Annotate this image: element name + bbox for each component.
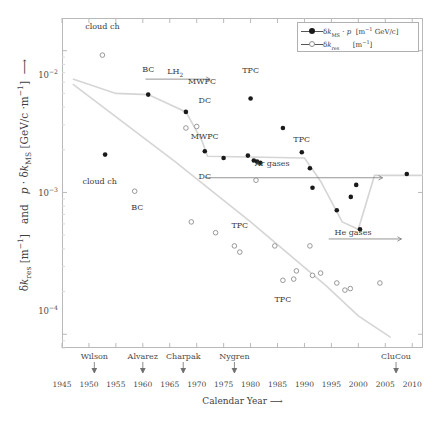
legend-label-res: δkres [m−1]: [323, 39, 415, 51]
legend-entry-res: δkres [m−1]: [301, 38, 415, 51]
annotation-label: cloud ch: [70, 177, 130, 186]
annotation-label: DC: [175, 96, 235, 105]
annotation-label: cloud ch: [72, 22, 132, 31]
annotation-label: He gases: [323, 228, 383, 237]
person-label-clucou: CluCou: [366, 352, 426, 361]
figure-container: δkres [m−1] and p · δkMS [GeV/c ·m−1] ⟶ …: [0, 0, 436, 424]
y-axis-title-text: δkres [m−1] and p · δkMS [GeV/c ·m−1] ⟶: [17, 59, 29, 291]
x-tick-label: 1985: [263, 380, 293, 389]
y-axis-title: δkres [m−1] and p · δkMS [GeV/c ·m−1] ⟶: [16, 20, 33, 330]
annotation-label: DC: [175, 172, 235, 181]
annotation-label: TPC: [272, 135, 332, 144]
x-tick-label: 2010: [397, 380, 427, 389]
legend: δkMS · p [m−1 GeV/c] δkres [m−1]: [297, 22, 419, 52]
x-tick-label: 1960: [128, 380, 158, 389]
annotation-label: Ar gases: [242, 159, 302, 168]
x-tick-label: 2005: [370, 380, 400, 389]
y-tick-label-1e-4: 10−4: [24, 304, 58, 316]
x-tick-label: 1950: [74, 380, 104, 389]
annotation-label: BC: [107, 203, 167, 212]
x-tick-label: 1990: [289, 380, 319, 389]
annotation-label: TPC: [221, 66, 281, 75]
x-tick-label: 2000: [343, 380, 373, 389]
person-markers: [92, 362, 399, 373]
annotation-label: MWPC: [172, 77, 232, 86]
x-tick-label: 1995: [316, 380, 346, 389]
annotation-label: LH2: [145, 67, 205, 78]
legend-marker-filled-circle: [301, 27, 323, 36]
x-tick-label: 1975: [209, 380, 239, 389]
x-tick-label: 1945: [47, 380, 77, 389]
legend-label-ms: δkMS · p [m−1 GeV/c]: [323, 26, 415, 38]
legend-entry-ms: δkMS · p [m−1 GeV/c]: [301, 25, 415, 38]
x-tick-label: 1955: [101, 380, 131, 389]
x-tick-label: 1965: [155, 380, 185, 389]
y-tick-label-1e-3: 10−3: [24, 186, 58, 198]
y-tick-label-1e-2: 10−2: [24, 68, 58, 80]
person-label-nygren: Nygren: [204, 352, 264, 361]
x-tick-label: 1970: [182, 380, 212, 389]
x-axis-title: Calendar Year ⟶: [62, 396, 423, 406]
annotation-label: MWPC: [175, 132, 235, 141]
annotation-label: TPC: [253, 295, 313, 304]
x-tick-label: 1980: [236, 380, 266, 389]
legend-marker-open-circle: [301, 40, 323, 49]
annotation-label: TPC: [210, 221, 270, 230]
